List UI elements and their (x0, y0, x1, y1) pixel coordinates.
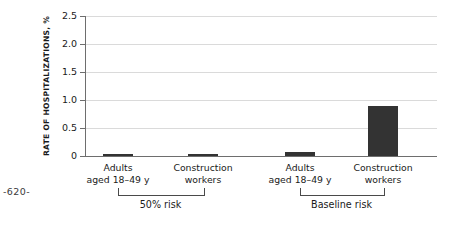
figure-bar-chart: -620- RATE OF HOSPITALIZATIONS, % 00.51.… (0, 0, 451, 229)
group-label: 50% risk (58, 199, 263, 211)
category-label: Constructionworkers (148, 162, 258, 185)
y-tick-label: 0.5 (37, 123, 77, 133)
y-tick-label-wrap: 1.0 (33, 95, 77, 105)
x-axis-line (85, 156, 437, 157)
y-axis-title: RATE OF HOSPITALIZATIONS, % (41, 16, 53, 156)
y-tick-label: 1.0 (37, 95, 77, 105)
y-tick-label: 2.5 (37, 11, 77, 21)
y-tick-label-wrap: 2.5 (33, 11, 77, 21)
y-tick-label-wrap: 0.5 (33, 123, 77, 133)
category-label-line1: Construction (328, 162, 438, 174)
bars-layer (85, 16, 437, 156)
bar (368, 106, 398, 156)
bar (188, 154, 218, 157)
category-label: Constructionworkers (328, 162, 438, 185)
y-tick-label-wrap: 2.0 (33, 39, 77, 49)
y-tick-label: 1.5 (37, 67, 77, 77)
category-label-line1: Construction (148, 162, 258, 174)
group-label: Baseline risk (240, 199, 443, 211)
y-tick-label-wrap: 1.5 (33, 67, 77, 77)
y-tick-label: 0 (37, 151, 77, 161)
y-tick-label: 2.0 (37, 39, 77, 49)
bar (103, 154, 133, 157)
group-bracket (118, 188, 205, 196)
category-label-line2: workers (148, 174, 258, 186)
category-label-line2: workers (328, 174, 438, 186)
bar (285, 152, 315, 156)
y-tick-mark (80, 156, 85, 157)
page-number-marker: -620- (3, 186, 30, 197)
y-tick-label-wrap: 0 (33, 151, 77, 161)
group-bracket (300, 188, 385, 196)
